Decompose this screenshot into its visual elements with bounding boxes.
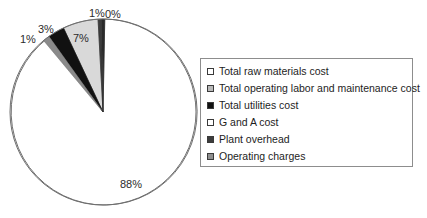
legend-marker-utilities-icon (207, 102, 214, 109)
pie-label-total-utilities-cost: 3% (38, 23, 54, 35)
legend-marker-operating-charges-icon (207, 153, 214, 160)
legend-item-total-operating-labor-and-maintenance-cost[interactable]: Total operating labor and maintenance co… (207, 80, 412, 97)
pie-chart-figure: 1% 0% 3% 1% 7% 88% Total raw materials c… (0, 0, 427, 218)
pie-label-total-raw-materials-cost: 88% (120, 178, 142, 190)
chart-legend: Total raw materials cost Total operating… (200, 58, 413, 167)
legend-item-total-utilities-cost[interactable]: Total utilities cost (207, 97, 412, 114)
legend-label: G and A cost (219, 117, 279, 128)
legend-item-g-and-a-cost[interactable]: G and A cost (207, 114, 412, 131)
legend-label: Plant overhead (219, 134, 290, 145)
legend-label: Operating charges (219, 151, 305, 162)
legend-label: Total raw materials cost (219, 66, 329, 77)
legend-marker-plant-overhead-icon (207, 136, 214, 143)
pie-label-plant-overhead: 1% (89, 7, 105, 19)
legend-label: Total operating labor and maintenance co… (219, 83, 420, 94)
legend-item-total-raw-materials-cost[interactable]: Total raw materials cost (207, 63, 412, 80)
pie-label-g-and-a-cost: 1% (20, 33, 36, 45)
pie-label-operating-charges: 0% (105, 8, 121, 20)
legend-marker-g-and-a-icon (207, 119, 214, 126)
legend-marker-operating-labor-icon (207, 85, 214, 92)
legend-marker-raw-materials-icon (207, 68, 214, 75)
legend-label: Total utilities cost (219, 100, 298, 111)
legend-item-operating-charges[interactable]: Operating charges (207, 148, 412, 165)
legend-item-plant-overhead[interactable]: Plant overhead (207, 131, 412, 148)
pie-label-total-operating-labor: 7% (73, 32, 89, 44)
